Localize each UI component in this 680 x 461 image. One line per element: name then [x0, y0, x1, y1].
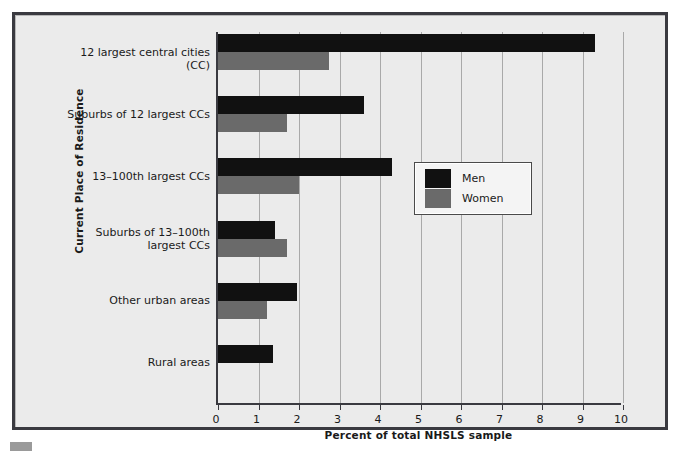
bar-men-group-4: [218, 283, 297, 301]
y-tick-label-3: Suburbs of 13–100th largest CCs: [55, 226, 210, 252]
bar-men-group-5: [218, 345, 273, 363]
x-tick-label-7: 7: [488, 413, 512, 426]
gridline-x-8: [542, 32, 543, 403]
x-tick-label-2: 2: [285, 413, 309, 426]
x-tick-1: [259, 405, 260, 410]
chart-legend: MenWomen: [414, 162, 532, 215]
x-tick-label-9: 9: [569, 413, 593, 426]
y-tick-label-1: Suburbs of 12 largest CCs: [55, 108, 210, 121]
x-tick-5: [421, 405, 422, 410]
y-tick-label-5: Rural areas: [55, 356, 210, 369]
x-tick-label-4: 4: [366, 413, 390, 426]
x-tick-0: [218, 405, 219, 410]
legend-swatch-men: [425, 169, 451, 188]
bar-women-group-2: [218, 176, 299, 194]
figure-frame: Current Place of Residence 12 largest ce…: [12, 12, 668, 430]
bar-men-group-3: [218, 221, 275, 239]
figure-page: Current Place of Residence 12 largest ce…: [0, 0, 680, 461]
gridline-x-2: [299, 32, 300, 403]
x-tick-2: [299, 405, 300, 410]
x-tick-label-8: 8: [528, 413, 552, 426]
gridline-x-7: [502, 32, 503, 403]
x-tick-9: [583, 405, 584, 410]
legend-item-men: Men: [425, 169, 485, 188]
y-tick-label-0: 12 largest central cities (CC): [55, 46, 210, 72]
x-tick-label-6: 6: [447, 413, 471, 426]
legend-item-women: Women: [425, 189, 503, 208]
x-tick-7: [502, 405, 503, 410]
y-tick-label-2: 13–100th largest CCs: [55, 170, 210, 183]
legend-label-women: Women: [462, 192, 503, 205]
bar-women-group-0: [218, 52, 329, 70]
x-axis-title: Percent of total NHSLS sample: [216, 429, 621, 441]
y-axis-tick-labels: 12 largest central cities (CC)Suburbs of…: [55, 32, 210, 405]
legend-label-men: Men: [462, 172, 485, 185]
y-tick-label-4: Other urban areas: [55, 294, 210, 307]
x-tick-label-1: 1: [245, 413, 269, 426]
x-tick-label-3: 3: [326, 413, 350, 426]
x-tick-10: [623, 405, 624, 410]
x-tick-6: [461, 405, 462, 410]
gridline-x-10: [623, 32, 624, 403]
corner-marker: [10, 442, 32, 451]
plot-area: [216, 32, 621, 405]
x-tick-label-10: 10: [609, 413, 633, 426]
bar-women-group-3: [218, 239, 287, 257]
bar-women-group-1: [218, 114, 287, 132]
gridline-x-6: [461, 32, 462, 403]
bar-men-group-1: [218, 96, 364, 114]
x-tick-3: [340, 405, 341, 410]
gridline-x-3: [340, 32, 341, 403]
x-tick-4: [380, 405, 381, 410]
gridline-x-9: [583, 32, 584, 403]
bar-men-group-2: [218, 158, 392, 176]
gridline-x-5: [421, 32, 422, 403]
bar-men-group-0: [218, 34, 595, 52]
bar-women-group-4: [218, 301, 267, 319]
gridline-x-4: [380, 32, 381, 403]
legend-swatch-women: [425, 189, 451, 208]
x-tick-8: [542, 405, 543, 410]
x-tick-label-0: 0: [204, 413, 228, 426]
x-tick-label-5: 5: [407, 413, 431, 426]
